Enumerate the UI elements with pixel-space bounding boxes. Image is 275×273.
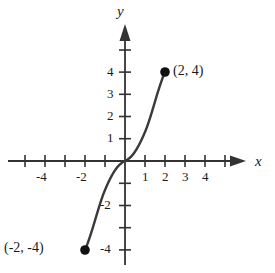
x-tick-label-4: 4	[202, 170, 209, 183]
x-axis-label: x	[255, 154, 262, 169]
x-tick-label-neg2: -2	[76, 170, 87, 183]
x-tick-label-2: 2	[162, 170, 169, 183]
y-tick-label-2: 2	[107, 109, 114, 122]
y-tick-label-4: 4	[107, 65, 114, 78]
y-tick-label-3: 3	[107, 87, 114, 100]
x-tick-label-1: 1	[142, 170, 149, 183]
y-tick-label-neg4: -4	[100, 242, 111, 255]
x-tick-label-neg4: -4	[36, 170, 47, 183]
y-axis	[119, 24, 131, 265]
coordinate-plane	[0, 0, 275, 273]
point-label-neg2-neg4: (-2, -4)	[4, 241, 44, 255]
point-label-2-4: (2, 4)	[173, 64, 203, 78]
x-tick-label-3: 3	[182, 170, 189, 183]
y-tick-label-1: 1	[107, 131, 114, 144]
y-tick-label-neg2: -2	[100, 198, 111, 211]
graph-figure: x y -4 -2 1 2 3 4 4 3 2 1 -2 -4 (2, 4) (…	[0, 0, 275, 273]
y-axis-label: y	[117, 4, 124, 19]
